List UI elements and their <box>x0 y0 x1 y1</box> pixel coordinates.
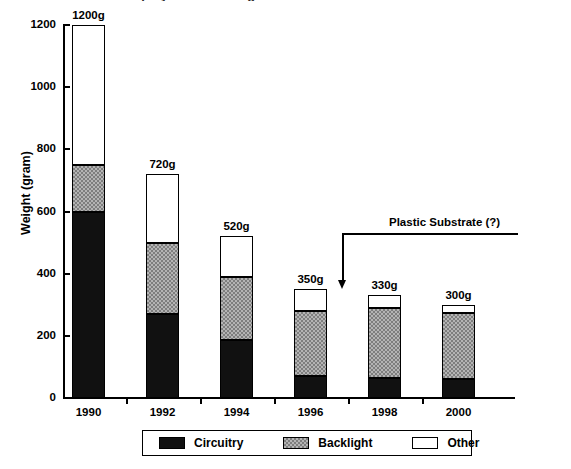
annotation-label: Plastic Substrate (?) <box>389 216 500 228</box>
annotation-arrowhead <box>338 280 346 289</box>
bar-segment-backlight[interactable] <box>294 311 327 376</box>
bar-1994[interactable] <box>220 236 253 398</box>
bar-segment-other[interactable] <box>442 305 475 313</box>
bar-1992[interactable] <box>146 174 179 398</box>
bar-value-label: 720g <box>118 158 208 170</box>
bar-segment-backlight[interactable] <box>220 277 253 341</box>
bar-segment-backlight[interactable] <box>146 243 179 314</box>
y-tick-label: 0 <box>14 392 56 404</box>
bar-segment-circuitry[interactable] <box>368 378 401 398</box>
bar-segment-other[interactable] <box>368 295 401 307</box>
y-tick-label: 400 <box>14 268 56 280</box>
bar-1996[interactable] <box>294 289 327 398</box>
y-tick-label-wrap: 800 <box>0 143 56 155</box>
bar-segment-other[interactable] <box>72 25 105 165</box>
y-tick <box>63 335 70 337</box>
bar-segment-circuitry[interactable] <box>294 376 327 398</box>
x-tick <box>126 397 128 404</box>
legend-item-circuitry: Circuitry <box>159 436 243 450</box>
y-tick-label: 600 <box>14 206 56 218</box>
bar-segment-backlight[interactable] <box>72 165 105 212</box>
x-tick-label: 1990 <box>54 406 124 418</box>
y-tick-label: 200 <box>14 330 56 342</box>
y-tick <box>63 397 70 399</box>
x-tick <box>348 397 350 404</box>
y-tick <box>63 211 70 213</box>
bar-2000[interactable] <box>442 305 475 398</box>
x-tick-label: 1994 <box>202 406 272 418</box>
legend-label-backlight: Backlight <box>318 436 372 450</box>
legend-item-other: Other <box>412 436 479 450</box>
bar-segment-backlight[interactable] <box>368 308 401 378</box>
x-tick <box>200 397 202 404</box>
chart-canvas: Display Module Weight Trend Weight (gram… <box>0 0 571 469</box>
legend-swatch-other <box>412 437 438 449</box>
bar-segment-other[interactable] <box>220 236 253 276</box>
bar-1990[interactable] <box>72 25 105 398</box>
legend-label-circuitry: Circuitry <box>194 436 243 450</box>
x-tick <box>274 397 276 404</box>
bar-segment-backlight[interactable] <box>442 313 475 380</box>
bar-segment-circuitry[interactable] <box>442 379 475 398</box>
chart-legend: Circuitry Backlight Other <box>142 430 472 456</box>
y-tick <box>63 148 70 150</box>
bar-segment-circuitry[interactable] <box>146 314 179 398</box>
legend-swatch-circuitry <box>159 437 185 449</box>
bar-segment-other[interactable] <box>294 289 327 311</box>
y-tick-label: 1000 <box>14 81 56 93</box>
legend-swatch-backlight <box>283 437 309 449</box>
y-tick <box>63 24 70 26</box>
legend-label-other: Other <box>447 436 479 450</box>
bar-value-label: 520g <box>192 220 282 232</box>
y-tick-label-wrap: 1000 <box>0 81 56 93</box>
y-tick-label: 800 <box>14 143 56 155</box>
y-tick-label-wrap: 600 <box>0 206 56 218</box>
bar-segment-circuitry[interactable] <box>72 212 105 399</box>
y-tick-label-wrap: 200 <box>0 330 56 342</box>
bar-segment-other[interactable] <box>146 174 179 242</box>
bar-value-label: 1200g <box>44 9 134 21</box>
bar-segment-circuitry[interactable] <box>220 340 253 398</box>
x-tick-label: 1996 <box>276 406 346 418</box>
x-tick <box>422 397 424 404</box>
annotation-leader-vertical <box>342 233 344 282</box>
clipped-title: Display Module Weight Trend <box>120 0 460 1</box>
y-tick <box>63 86 70 88</box>
x-tick-label: 1992 <box>128 406 198 418</box>
y-tick-label-wrap: 400 <box>0 268 56 280</box>
x-tick-label: 2000 <box>424 406 494 418</box>
y-tick <box>63 273 70 275</box>
bar-value-label: 300g <box>414 289 504 301</box>
y-tick-label-wrap: 0 <box>0 392 56 404</box>
x-tick-label: 1998 <box>350 406 420 418</box>
annotation-leader-horizontal <box>342 233 518 235</box>
bar-1998[interactable] <box>368 295 401 398</box>
legend-item-backlight: Backlight <box>283 436 372 450</box>
